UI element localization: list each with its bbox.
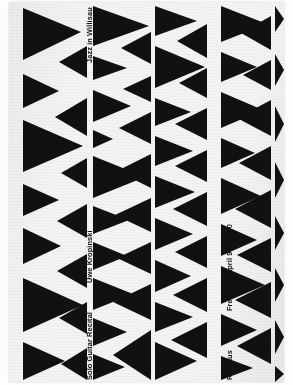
- triangle-shape: [23, 342, 65, 380]
- triangle-shape: [121, 32, 151, 64]
- triangle-shape: [177, 24, 207, 58]
- triangle-shape: [23, 8, 81, 60]
- triangle-shape: [93, 90, 131, 122]
- poster-artist-name: Uwe Kropinski: [86, 230, 93, 283]
- poster-date-time: Freitag 3. April 98, 20.30: [226, 224, 233, 311]
- triangle-shape: [61, 348, 87, 380]
- poster-sheet: Jazz in Willisau Uwe Kropinski Solo Guit…: [9, 2, 284, 382]
- triangle-shape: [173, 278, 207, 312]
- poster-program-label: Solo Guitar Recital: [86, 312, 93, 380]
- triangle-shape: [275, 162, 284, 198]
- triangle-shape: [23, 74, 59, 108]
- triangle-shape: [275, 6, 284, 32]
- triangle-shape: [155, 218, 193, 250]
- triangle-shape: [155, 302, 193, 332]
- triangle-shape: [275, 320, 284, 354]
- triangle-shape: [55, 98, 87, 136]
- triangle-shape: [23, 228, 61, 264]
- triangle-shape: [113, 330, 151, 380]
- triangle-shape: [57, 204, 87, 238]
- poster-venue: Rathaus: [226, 350, 233, 380]
- triangle-shape: [117, 242, 151, 274]
- triangle-shape: [275, 268, 284, 302]
- triangle-shape: [61, 158, 87, 188]
- poster-series-title: Jazz in Willisau: [86, 7, 93, 63]
- triangle-shape: [275, 366, 284, 382]
- triangle-shape: [275, 216, 284, 250]
- triangle-shape: [275, 54, 284, 86]
- triangle-shape: [119, 112, 151, 144]
- triangle-shape: [57, 254, 87, 288]
- triangle-shape: [155, 6, 197, 36]
- triangle-shape: [59, 46, 87, 78]
- triangle-shape: [155, 260, 191, 292]
- poster-image: Jazz in Willisau Uwe Kropinski Solo Guit…: [0, 0, 293, 385]
- triangle-shape: [23, 184, 59, 216]
- triangle-shape: [123, 76, 151, 102]
- triangle-pattern-artwork: [9, 2, 284, 382]
- triangle-shape: [93, 206, 129, 234]
- triangle-shape: [93, 318, 127, 346]
- triangle-shape: [93, 56, 127, 80]
- triangle-shape: [115, 198, 151, 232]
- triangle-shape: [175, 236, 207, 268]
- triangle-shape: [93, 130, 113, 148]
- triangle-shape: [275, 106, 284, 142]
